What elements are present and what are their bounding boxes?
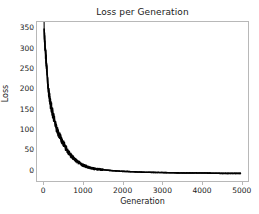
x-tick-label: 0 bbox=[26, 187, 60, 195]
x-tick-mark bbox=[123, 182, 124, 185]
chart-title: Loss per Generation bbox=[36, 5, 249, 19]
x-tick-mark bbox=[162, 182, 163, 185]
x-tick-mark bbox=[242, 182, 243, 185]
x-tick-label: 4000 bbox=[185, 187, 219, 195]
y-tick-mark bbox=[31, 89, 34, 90]
loss-series-core bbox=[44, 28, 241, 173]
x-axis-label: Generation bbox=[36, 197, 249, 207]
x-tick-label: 1000 bbox=[66, 187, 100, 195]
y-axis-ticks: 050100150200250300350 bbox=[4, 21, 34, 182]
y-tick-mark bbox=[31, 150, 34, 151]
plot-area bbox=[36, 21, 249, 182]
x-tick-label: 5000 bbox=[225, 187, 259, 195]
x-tick-mark bbox=[43, 182, 44, 185]
x-tick-label: 2000 bbox=[106, 187, 140, 195]
y-tick-mark bbox=[31, 171, 34, 172]
x-tick-mark bbox=[202, 182, 203, 185]
y-tick-mark bbox=[31, 49, 34, 50]
y-tick-mark bbox=[31, 130, 34, 131]
x-tick-label: 3000 bbox=[145, 187, 179, 195]
x-tick-mark bbox=[83, 182, 84, 185]
y-tick-mark bbox=[31, 28, 34, 29]
y-tick-mark bbox=[31, 110, 34, 111]
loss-series-path bbox=[44, 22, 241, 174]
loss-chart-figure: Loss per Generation Loss 050100150200250… bbox=[0, 0, 259, 214]
x-axis-ticks: 010002000300040005000 bbox=[36, 182, 250, 198]
y-tick-mark bbox=[31, 69, 34, 70]
loss-curve bbox=[37, 22, 248, 181]
